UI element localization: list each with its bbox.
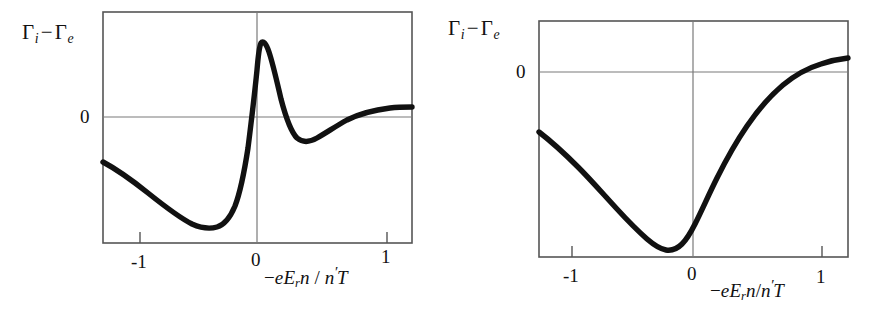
density-symbol: n — [300, 267, 310, 288]
gamma-e-symbol: Γe — [55, 20, 74, 44]
figure-root: Γi−Γe 0 -1 0 1 −eErn / n′T Γi−Γe 0 — [0, 0, 892, 312]
field-symbol: E — [729, 280, 741, 301]
y-axis-title: Γi−Γe — [448, 18, 500, 42]
minus-symbol: − — [41, 20, 53, 44]
field-symbol: E — [283, 267, 295, 288]
gamma-e-symbol: Γe — [481, 16, 500, 40]
y-tick-label-zero: 0 — [516, 62, 526, 81]
minus-sign: − — [264, 267, 275, 288]
x-tick-label-minus1: -1 — [563, 266, 579, 285]
x-tick-label-plus1: 1 — [816, 267, 826, 286]
division-slash: / — [310, 267, 325, 288]
x-tick-label-zero: 0 — [251, 250, 261, 269]
x-tick-label-plus1: 1 — [381, 247, 391, 266]
x-axis-title: −eErn/n′T — [710, 277, 784, 303]
density-gradient-symbol: n — [325, 267, 335, 288]
temperature-symbol: T — [337, 267, 348, 288]
temperature-symbol: T — [773, 280, 784, 301]
gamma-i-symbol: Γi — [448, 16, 465, 40]
minus-symbol: − — [467, 16, 479, 40]
minus-sign: − — [710, 280, 721, 301]
chart-panel-left: Γi−Γe 0 -1 0 1 −eErn / n′T — [0, 0, 446, 312]
y-axis-title: Γi−Γe — [22, 22, 74, 46]
x-axis-title: −eErn / n′T — [264, 264, 348, 290]
x-tick-label-zero: 0 — [687, 264, 697, 283]
chart-panel-right: Γi−Γe 0 -1 0 −eErn/n′T 1 — [446, 0, 892, 312]
gamma-i-symbol: Γi — [22, 20, 39, 44]
y-tick-label-zero: 0 — [80, 107, 90, 126]
density-symbol: n — [746, 280, 756, 301]
plot-svg-left — [0, 0, 446, 312]
x-tick-label-minus1: -1 — [131, 252, 147, 271]
